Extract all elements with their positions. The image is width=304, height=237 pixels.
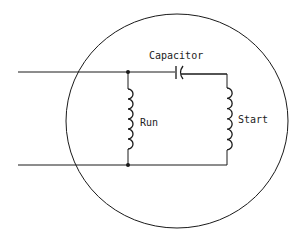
- capacitor-symbol: [176, 66, 227, 79]
- motor-circuit-diagram: Capacitor Run Start: [0, 0, 304, 237]
- run-label: Run: [140, 117, 158, 128]
- start-label: Start: [238, 114, 268, 125]
- capacitor-label: Capacitor: [149, 50, 203, 61]
- bottom-junction-dot: [126, 163, 130, 167]
- top-junction-dot: [126, 70, 130, 74]
- supply-wires: [18, 72, 227, 165]
- start-winding-coil: [227, 88, 232, 150]
- run-winding-coil: [128, 89, 133, 149]
